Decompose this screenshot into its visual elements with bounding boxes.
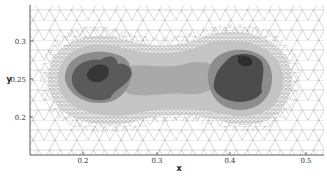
bridge-region [116,62,218,95]
y-tick-0.2: 0.2 [15,114,26,122]
x-axis-title: x [176,164,182,173]
y-tick-0.3: 0.3 [15,38,26,46]
plot-area [30,5,324,155]
x-tick-labels: 0.2 0.3 0.4 0.5 [77,157,311,165]
x-tick-0.4: 0.4 [224,157,236,165]
x-tick-0.3: 0.3 [151,157,162,165]
y-tick-0.25: 0.25 [10,76,26,84]
x-tick-0.2: 0.2 [77,157,88,165]
y-axis-title: y [6,75,12,84]
mesh-contour-plot: 0.3 0.25 0.2 0.2 0.3 0.4 0.5 y x [0,0,327,178]
y-tick-labels: 0.3 0.25 0.2 [10,38,26,122]
x-tick-0.5: 0.5 [300,157,311,165]
